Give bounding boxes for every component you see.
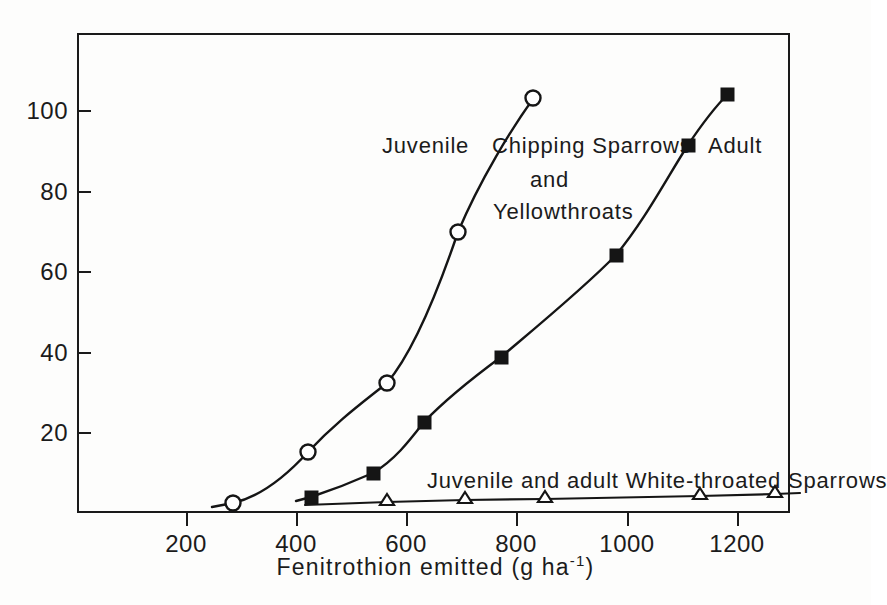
y-axis-labels: 100 80 60 40 20 xyxy=(0,0,68,605)
annotation-and: and xyxy=(530,167,569,193)
x-axis-title-main: Fenitrothion emitted (g ha xyxy=(277,554,570,580)
annotation-juvenile: Juvenile xyxy=(382,133,469,159)
x-tickmark-400 xyxy=(296,513,298,526)
y-tick-label-100: 100 xyxy=(26,97,68,125)
y-tick-label-40: 40 xyxy=(40,339,68,367)
y-tick-label-80: 80 xyxy=(40,178,68,206)
annotation-white-throated-sparrows: Juvenile and adult White-throated Sparro… xyxy=(427,468,887,494)
y-tickmark-20 xyxy=(77,432,91,434)
annotation-chipping-sparrows: Chipping Sparrows xyxy=(492,133,691,159)
y-tickmark-80 xyxy=(77,191,91,193)
plot-frame xyxy=(77,33,790,513)
annotation-yellowthroats: Yellowthroats xyxy=(493,199,633,225)
x-axis-title-superscript: -1 xyxy=(570,552,586,569)
y-tickmark-60 xyxy=(77,271,91,273)
x-tickmark-600 xyxy=(406,513,408,526)
y-tickmark-100 xyxy=(77,110,91,112)
x-tickmark-1000 xyxy=(627,513,629,526)
x-axis-title-end: ) xyxy=(586,554,595,580)
annotation-adult: Adult xyxy=(708,133,762,159)
y-tickmark-40 xyxy=(77,352,91,354)
x-tickmark-200 xyxy=(186,513,188,526)
y-tick-label-60: 60 xyxy=(40,258,68,286)
y-tick-label-20: 20 xyxy=(40,419,68,447)
x-axis-title: Fenitrothion emitted (g ha-1) xyxy=(0,552,871,581)
x-tickmark-800 xyxy=(516,513,518,526)
x-tickmark-1200 xyxy=(737,513,739,526)
